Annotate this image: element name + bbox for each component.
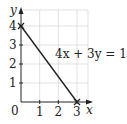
x-tick-1: 1 (36, 105, 44, 119)
equation-label: 4x + 3y = 12 (55, 47, 127, 61)
origin-label: 0 (11, 104, 19, 118)
linear-equation-graph: 0 1 2 3 x 1 2 3 4 y 4x + 3y = 12 (0, 0, 127, 124)
x-tick-2: 2 (55, 105, 63, 119)
y-tick-2: 2 (9, 57, 17, 71)
y-axis-arrow-icon (19, 7, 24, 14)
y-tick-3: 3 (9, 38, 17, 52)
y-tick-1: 1 (9, 76, 17, 90)
y-tick-4: 4 (9, 19, 17, 33)
y-axis-label: y (9, 3, 17, 17)
x-axis-label: x (86, 103, 93, 117)
x-tick-3: 3 (73, 105, 81, 119)
